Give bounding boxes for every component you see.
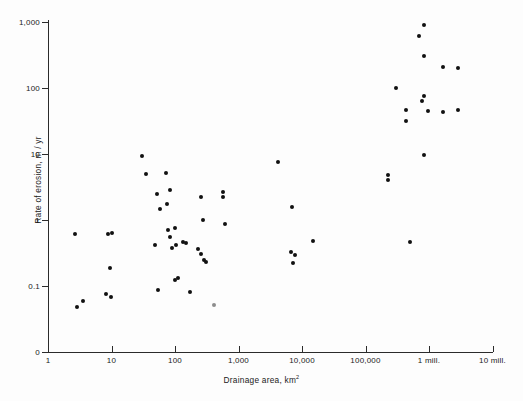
data-point [173,226,177,230]
x-axis-title: Drainage area, km2 [0,374,523,385]
data-point [204,260,208,264]
data-point [168,188,172,192]
data-point [158,207,162,211]
data-point [293,253,297,257]
data-point [153,243,157,247]
data-point [276,160,280,164]
y-tick-mark [42,352,49,353]
data-point [456,66,460,70]
data-point [75,305,79,309]
y-tick-label: 0.1 [0,282,40,291]
data-point [426,109,430,113]
data-point [108,266,112,270]
y-tick-mark [42,220,49,221]
data-point [291,261,295,265]
y-tick-label: 1,000 [0,18,40,27]
x-tick-mark [112,346,113,352]
data-point [164,171,168,175]
y-tick-label: 0 [0,348,40,357]
data-point [386,173,390,177]
x-axis-title-text: Drainage area, km [224,375,297,385]
data-point [422,94,426,98]
x-tick-mark [366,346,367,352]
data-point [221,190,225,194]
x-tick-mark [302,346,303,352]
y-tick-mark [42,88,49,89]
data-point [404,119,408,123]
data-point [104,292,108,296]
data-point [196,247,200,251]
data-point [290,205,294,209]
data-point [408,240,412,244]
data-point [212,303,216,307]
x-tick-mark [493,346,494,352]
y-tick-label: 100 [0,84,40,93]
data-point [441,65,445,69]
data-point [173,278,177,282]
data-point [394,86,398,90]
data-point [386,178,390,182]
data-point [422,153,426,157]
y-axis-line [48,20,49,353]
data-point [422,23,426,27]
x-tick-label: 10 mill. [479,356,506,365]
data-point [144,172,148,176]
data-point [199,195,203,199]
x-axis-line [48,352,493,353]
x-axis-title-superscript: 2 [296,374,299,380]
x-tick-label: 1 [46,356,51,365]
data-point [184,241,188,245]
y-axis-title: Rate of erosion, m / yr [33,100,43,260]
data-point [81,299,85,303]
x-tick-label: 100,000 [350,356,380,365]
data-point [199,252,203,256]
x-tick-label: 1,000 [228,356,249,365]
x-tick-label: 1 mill. [418,356,440,365]
data-point [73,232,77,236]
plot-area: 1,0001001010.10 1101001,00010,000100,000… [0,0,523,401]
data-point [422,54,426,58]
x-tick-mark [48,346,49,352]
data-point [201,218,205,222]
data-point [441,110,445,114]
data-point [156,288,160,292]
data-point [170,246,174,250]
y-tick-mark [42,22,49,23]
data-point [174,243,178,247]
data-point [404,108,408,112]
x-tick-label: 10,000 [289,356,315,365]
erosion-scatter-chart-screenshot: 1,0001001010.10 1101001,00010,000100,000… [0,0,523,401]
data-point [140,154,144,158]
x-tick-label: 10 [107,356,116,365]
x-tick-label: 100 [168,356,182,365]
data-point [456,108,460,112]
data-point [155,192,159,196]
data-point [188,290,192,294]
x-tick-mark [239,346,240,352]
data-point [109,295,113,299]
data-point [166,228,170,232]
y-tick-mark [42,154,49,155]
data-point [165,202,169,206]
data-point [420,99,424,103]
y-tick-mark [42,286,49,287]
data-point [417,34,421,38]
data-point [110,231,114,235]
x-tick-mark [175,346,176,352]
data-point [221,195,225,199]
data-point [223,222,227,226]
data-point [168,235,172,239]
x-tick-mark [429,346,430,352]
data-point [311,239,315,243]
